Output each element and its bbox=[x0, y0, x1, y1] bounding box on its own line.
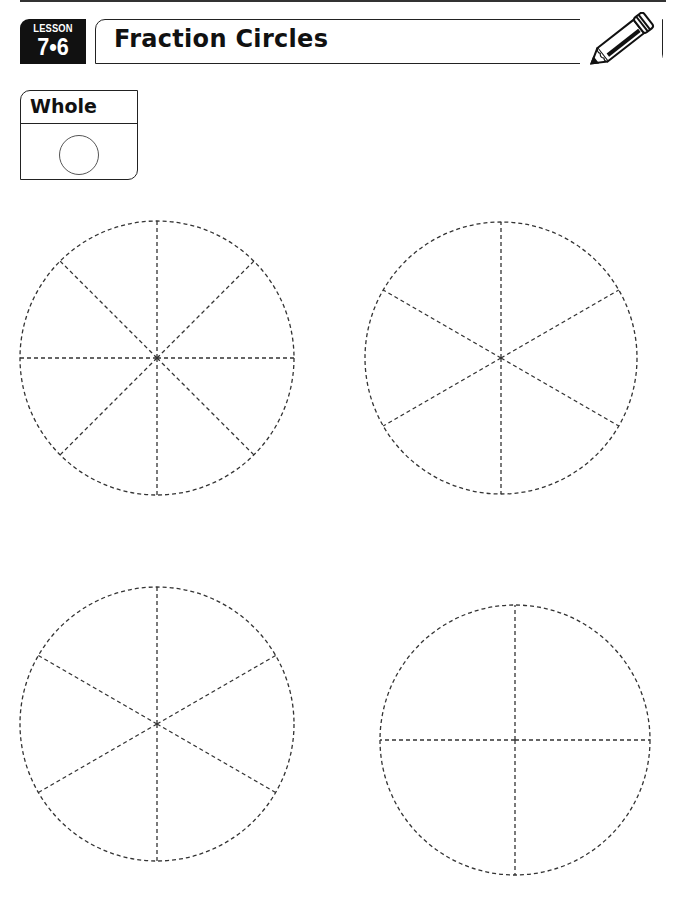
section-divider bbox=[157, 261, 254, 358]
section-divider bbox=[501, 290, 619, 358]
circle-sixths-b bbox=[20, 587, 294, 861]
section-divider bbox=[38, 656, 157, 725]
section-divider bbox=[501, 358, 619, 426]
circle-fourths bbox=[380, 605, 650, 875]
section-divider bbox=[157, 724, 276, 793]
section-divider bbox=[383, 358, 501, 426]
section-divider bbox=[60, 261, 157, 358]
circle-sixths-a bbox=[365, 222, 637, 494]
fraction-circles bbox=[0, 0, 683, 903]
section-divider bbox=[60, 358, 157, 455]
section-divider bbox=[157, 656, 276, 725]
section-divider bbox=[157, 358, 254, 455]
circle-eighths bbox=[20, 221, 294, 495]
section-divider bbox=[383, 290, 501, 358]
section-divider bbox=[38, 724, 157, 793]
